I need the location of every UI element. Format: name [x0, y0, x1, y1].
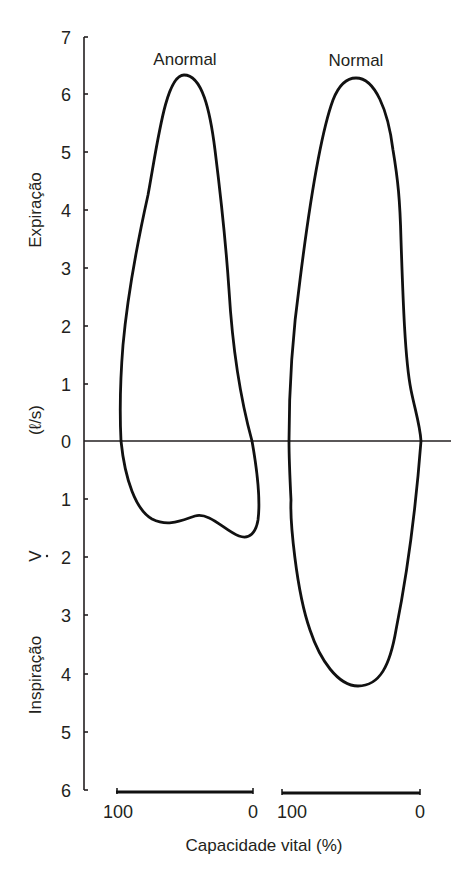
y-tick-3: 3	[61, 259, 71, 279]
y-tick-4: 4	[61, 201, 71, 221]
series-title-normal: Normal	[329, 51, 384, 70]
y-tick-neg1: 1	[61, 490, 71, 510]
x-tick-normal-0: 0	[415, 802, 425, 822]
y-label-expiracao: Expiração	[26, 172, 45, 248]
y-tick-7: 7	[61, 28, 71, 48]
normal-loop	[289, 78, 421, 686]
y-tick-neg2: 2	[61, 548, 71, 568]
x-tick-anormal-100: 100	[103, 802, 133, 822]
y-tick-neg4: 4	[61, 665, 71, 685]
vc-bar-anormal	[116, 788, 253, 794]
y-tick-neg5: 5	[61, 723, 71, 743]
x-tick-anormal-0: 0	[248, 802, 258, 822]
y-tick-labels: 7 6 5 4 3 2 1 0 1 2 3 4 5 6	[61, 28, 71, 801]
series-title-anormal: Anormal	[153, 50, 216, 69]
y-label-unit: (ℓ/s)	[26, 405, 45, 435]
y-tick-neg3: 3	[61, 606, 71, 626]
y-label-inspiracao: Inspiração	[26, 636, 45, 714]
anormal-loop	[120, 75, 259, 537]
flow-volume-chart: 7 6 5 4 3 2 1 0 1 2 3 4 5 6 Expiração (ℓ…	[0, 0, 465, 874]
x-tick-labels: 100 0 100 0	[103, 802, 425, 822]
y-tick-0: 0	[61, 432, 71, 452]
y-tick-2: 2	[61, 317, 71, 337]
x-axis-label: Capacidade vital (%)	[186, 836, 343, 855]
y-label-vdot: V	[26, 550, 45, 562]
vc-bar-normal	[282, 789, 420, 795]
y-tick-5: 5	[61, 143, 71, 163]
vdot-dot	[46, 555, 48, 557]
y-tick-6: 6	[61, 85, 71, 105]
y-tick-neg6: 6	[61, 781, 71, 801]
x-tick-normal-100: 100	[277, 802, 307, 822]
y-tick-1: 1	[61, 375, 71, 395]
